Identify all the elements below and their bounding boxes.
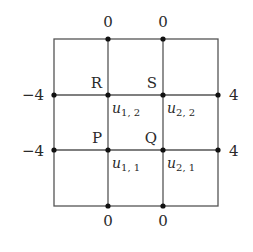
boundary-dot bbox=[215, 92, 220, 97]
boundary-dot bbox=[51, 92, 56, 97]
node-label-R: R bbox=[91, 74, 103, 92]
node-dot-R bbox=[105, 92, 110, 97]
node-dot-Q bbox=[160, 147, 165, 152]
boundary-value-top-left: 0 bbox=[103, 13, 113, 31]
boundary-value-bottom-left: 0 bbox=[103, 212, 113, 230]
boundary-dot bbox=[51, 147, 56, 152]
grid-points bbox=[51, 36, 220, 208]
outer-boundary bbox=[54, 39, 218, 206]
unknown-u22: u2, 2 bbox=[167, 100, 195, 118]
unknown-u21: u2, 1 bbox=[167, 155, 195, 173]
boundary-dot bbox=[105, 36, 110, 41]
boundary-value-right-upper: 4 bbox=[229, 86, 239, 104]
node-dot-P bbox=[105, 147, 110, 152]
unknown-u11: u1, 1 bbox=[112, 155, 140, 173]
boundary-dot bbox=[105, 203, 110, 208]
boundary-value-bottom-right: 0 bbox=[158, 212, 168, 230]
node-label-S: S bbox=[147, 74, 157, 92]
boundary-dot bbox=[160, 203, 165, 208]
unknown-u12: u1, 2 bbox=[112, 100, 140, 118]
boundary-value-right-lower: 4 bbox=[229, 142, 239, 160]
grid-diagram: 0 0 0 0 −4 −4 4 4 R S P Q u1, 2 u2, 2 u1… bbox=[0, 0, 253, 252]
boundary-value-left-upper: −4 bbox=[22, 86, 44, 104]
boundary-value-left-lower: −4 bbox=[22, 142, 44, 160]
node-label-Q: Q bbox=[145, 129, 157, 147]
boundary-value-top-right: 0 bbox=[158, 13, 168, 31]
boundary-dot bbox=[160, 36, 165, 41]
boundary-dot bbox=[215, 147, 220, 152]
node-dot-S bbox=[160, 92, 165, 97]
node-label-P: P bbox=[92, 129, 102, 147]
